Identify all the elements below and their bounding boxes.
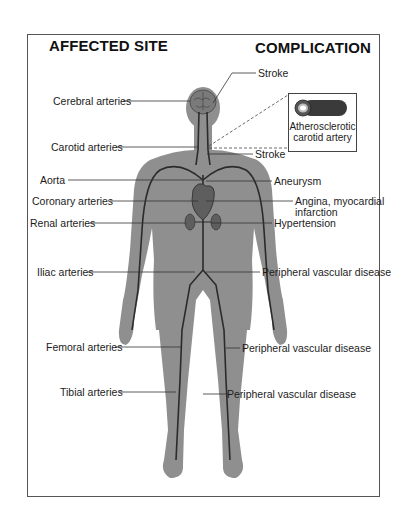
label-renal-arteries: Renal arteries [30,217,95,229]
label-cerebral-arteries: Cerebral arteries [53,95,131,107]
label-aorta: Aorta [40,174,65,186]
label-stroke-cerebral: Stroke [258,67,288,79]
inset-pointer-lines [209,95,288,148]
atherosclerotic-artery-inset: Atherosclerotic carotid artery [288,93,357,152]
label-stroke-carotid: Stroke [255,148,285,160]
label-pvd-tibial: Peripheral vascular disease [227,388,356,400]
artery-cross-section-icon [289,94,356,122]
label-femoral-arteries: Femoral arteries [46,341,122,353]
label-pvd-iliac: Peripheral vascular disease [262,266,391,278]
label-carotid-arteries: Carotid arteries [51,141,123,153]
kidney-left-icon [185,214,195,230]
kidney-right-icon [211,214,221,230]
label-coronary-arteries: Coronary arteries [32,195,113,207]
label-pvd-femoral: Peripheral vascular disease [242,342,371,354]
label-aneurysm: Aneurysm [274,175,321,187]
label-iliac-arteries: Iliac arteries [37,266,94,278]
human-body-illustration [0,0,405,523]
inset-caption-line1: Atherosclerotic [289,121,356,132]
body-silhouette [119,87,287,478]
inset-caption-line2: carotid artery [289,132,356,143]
label-tibial-arteries: Tibial arteries [60,386,123,398]
label-hypertension: Hypertension [274,217,336,229]
